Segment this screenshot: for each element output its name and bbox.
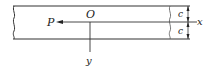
y-axis-label: y [85,55,92,66]
dimension-arrow-bottom-icon [187,34,190,39]
dimension-arrow-mid-down-icon [187,22,190,27]
beam-diagram: P O y x c c [0,0,209,80]
x-axis-label: x [197,16,203,27]
origin-label: O [86,8,95,21]
half-depth-bottom-label: c [178,26,183,36]
right-break-line [169,6,170,39]
dimension-arrow-mid-up-icon [187,17,190,22]
dimension-arrow-top-icon [187,6,190,11]
left-break-line [13,6,14,39]
half-depth-top-label: c [178,9,183,19]
force-arrowhead-icon [56,20,63,24]
force-label: P [46,16,55,29]
